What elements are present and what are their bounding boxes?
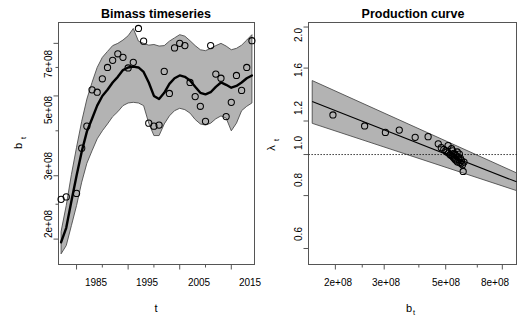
x-tick-label-left-1: 1995: [136, 277, 159, 288]
x-tick-label-right-2: 5e+08: [432, 277, 461, 288]
x-axis-ticks-left: [77, 265, 232, 270]
data-point: [461, 159, 467, 165]
data-point: [425, 134, 431, 140]
data-point: [161, 68, 167, 74]
data-point: [156, 122, 162, 128]
data-point: [94, 89, 100, 95]
x-tick-label-left-3: 2015: [239, 277, 262, 288]
y-tick-label-right-5: 2.0: [293, 28, 304, 42]
y-tick-label-right-3: 1.2: [293, 101, 304, 115]
data-point: [187, 79, 193, 85]
y-axis-title-left-base: b: [12, 143, 24, 149]
credible-interval-band: [61, 28, 252, 253]
data-point: [223, 114, 229, 120]
y-axis-title-left-sub: t: [19, 136, 28, 139]
data-point: [202, 118, 208, 124]
data-point: [130, 59, 136, 65]
data-point: [244, 64, 250, 70]
biomass-timeseries-panel: Bimass timeseries 7e+08 5e+08 3e+08 2e+0…: [0, 0, 263, 325]
data-point: [171, 45, 177, 51]
x-axis-title-right-base: b: [406, 302, 412, 314]
data-point: [192, 93, 198, 99]
fitted-line: [312, 101, 516, 181]
x-tick-label-left-0: 1985: [85, 277, 108, 288]
y-tick-label-right-1: 0.8: [293, 173, 304, 187]
y-axis-ticks-left: [54, 43, 59, 239]
y-tick-label-right-2: 1.0: [293, 136, 304, 150]
data-point: [412, 134, 418, 140]
data-point: [135, 25, 141, 31]
data-point: [197, 103, 203, 109]
x-axis-title-right-sub: t: [413, 308, 416, 317]
y-tick-label-left-3: 7e+08: [43, 50, 54, 79]
data-point: [249, 38, 255, 44]
left-plot-data: [58, 25, 255, 253]
biomass-timeseries-svg: Bimass timeseries 7e+08 5e+08 3e+08 2e+0…: [0, 0, 263, 325]
data-point: [79, 145, 85, 151]
data-point: [120, 54, 126, 60]
y-tick-label-right-4: 1.6: [293, 63, 304, 77]
y-tick-label-right-0: 0.6: [293, 227, 304, 241]
y-axis-title-left: b t: [12, 136, 28, 149]
x-axis-title-left: t: [154, 302, 157, 314]
production-curve-svg: Production curve 2.0 1.6 1.2 1.0 0.8 0.6…: [263, 0, 526, 325]
data-point: [239, 87, 245, 93]
x-axis-ticks-right: [335, 265, 502, 270]
x-axis-title-right: b t: [406, 302, 416, 317]
data-point: [218, 75, 224, 81]
data-point: [362, 123, 368, 129]
right-plot-data: [309, 81, 517, 191]
production-curve-panel: Production curve 2.0 1.6 1.2 1.0 0.8 0.6…: [263, 0, 526, 325]
data-point: [63, 194, 69, 200]
y-axis-title-right-base: λ: [265, 145, 277, 151]
data-point: [208, 43, 214, 49]
data-point: [182, 43, 188, 49]
x-tick-label-right-3: 8e+08: [481, 277, 510, 288]
data-point: [125, 65, 131, 71]
data-point: [396, 127, 402, 133]
data-point: [228, 99, 234, 105]
data-point: [382, 129, 388, 135]
y-axis-title-right: λ t: [265, 138, 281, 151]
data-point: [99, 76, 105, 82]
y-axis-ticks-right: [304, 27, 309, 248]
data-point: [104, 64, 110, 70]
panel-title-left: Bimass timeseries: [101, 7, 211, 21]
data-point: [141, 38, 147, 44]
figure-canvas: Bimass timeseries 7e+08 5e+08 3e+08 2e+0…: [0, 0, 526, 325]
x-tick-label-left-2: 2005: [188, 277, 211, 288]
x-tick-label-right-1: 3e+08: [372, 277, 401, 288]
data-point: [166, 90, 172, 96]
data-point: [330, 112, 336, 118]
data-point: [460, 168, 466, 174]
x-tick-label-right-0: 2e+08: [324, 277, 353, 288]
data-point: [233, 72, 239, 78]
data-point: [84, 123, 90, 129]
data-point: [73, 190, 79, 196]
data-point: [110, 57, 116, 63]
y-tick-label-left-1: 3e+08: [43, 152, 54, 181]
y-tick-label-left-2: 5e+08: [43, 96, 54, 125]
y-axis-title-right-sub: t: [272, 138, 281, 141]
y-tick-label-left-0: 2e+08: [43, 210, 54, 239]
panel-title-right: Production curve: [362, 7, 465, 21]
